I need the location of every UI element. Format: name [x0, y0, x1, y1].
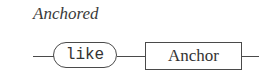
- exit-line: [242, 56, 259, 57]
- connector-line: [117, 56, 145, 57]
- entry-line: [33, 56, 54, 57]
- terminal-like: like: [53, 42, 117, 68]
- nonterminal-anchor: Anchor: [145, 42, 242, 70]
- diagram-title: Anchored: [33, 4, 98, 24]
